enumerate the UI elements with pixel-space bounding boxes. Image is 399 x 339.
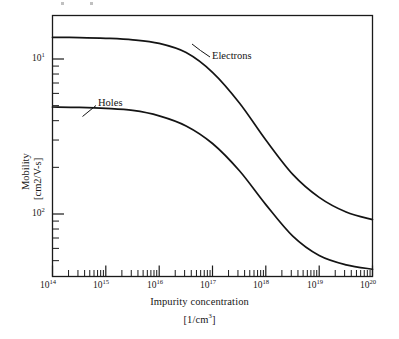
x-tick-exponent: 16 [157, 278, 164, 285]
y-tick-exponent: 1 [42, 51, 45, 58]
series-line-electrons [53, 37, 373, 219]
x-tick-label: 1019 [307, 280, 323, 290]
x-tick-exponent: 20 [370, 278, 377, 285]
x-tick-exponent: 14 [50, 278, 57, 285]
y-tick-label: 102 [32, 208, 45, 218]
annotation-electrons: Electrons [212, 50, 252, 61]
x-tick-label: 1018 [253, 280, 269, 290]
x-tick-exponent: 15 [103, 278, 110, 285]
y-axis-ticks [53, 59, 65, 214]
x-tick-base: 10 [360, 280, 370, 290]
x-axis-title: Impurity concentration [0, 296, 399, 307]
x-axis-title-units: [1/cm3] [0, 312, 399, 325]
electrons-leader-line [192, 44, 210, 57]
x-units-prefix: [1/cm [183, 314, 208, 325]
x-tick-label: 1020 [360, 280, 376, 290]
x-tick-base: 10 [200, 280, 210, 290]
x-tick-base: 10 [147, 280, 157, 290]
y-axis-minor-ticks [53, 66, 60, 261]
x-units-suffix: ] [212, 314, 216, 325]
series-line-holes [53, 107, 373, 269]
mobility-vs-impurity-figure: 101 102 1014 1015 1016 1017 1018 1019 10… [0, 0, 399, 339]
x-tick-label: 1014 [40, 280, 56, 290]
x-tick-exponent: 19 [317, 278, 324, 285]
y-tick-base: 10 [32, 53, 42, 63]
x-tick-exponent: 18 [263, 278, 270, 285]
annotation-holes: Holes [98, 97, 123, 108]
x-axis-minor-ticks [69, 270, 371, 277]
data-curves [53, 37, 373, 269]
x-tick-base: 10 [40, 280, 50, 290]
x-tick-exponent: 17 [210, 278, 217, 285]
y-tick-base: 10 [32, 208, 42, 218]
y-tick-label: 101 [32, 53, 45, 63]
x-tick-label: 1015 [93, 280, 109, 290]
x-tick-base: 10 [93, 280, 103, 290]
y-tick-exponent: 2 [42, 206, 45, 213]
x-tick-label: 1016 [147, 280, 163, 290]
x-tick-label: 1017 [200, 280, 216, 290]
x-tick-base: 10 [307, 280, 317, 290]
x-tick-base: 10 [253, 280, 263, 290]
